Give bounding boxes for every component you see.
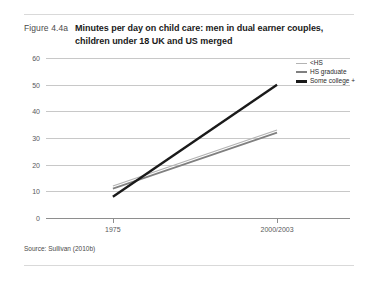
legend-label: Some college +	[310, 78, 355, 85]
figure-header: Figure 4.4a Minutes per day on child car…	[24, 22, 354, 48]
figure-number: Figure 4.4a	[24, 22, 68, 33]
x-axis-tick	[277, 218, 278, 223]
y-axis-tick-label: 20	[26, 161, 40, 168]
legend-item[interactable]: HS graduate	[296, 69, 374, 76]
legend: <HSHS graduateSome college +	[296, 60, 374, 87]
y-axis-tick-label: 0	[26, 215, 40, 222]
x-axis: 19752000/2003	[46, 218, 350, 240]
x-axis-tick-label: 1975	[105, 226, 121, 233]
x-axis-tick-label: 2000/2003	[260, 226, 293, 233]
y-axis-tick-label: 60	[26, 55, 40, 62]
legend-item[interactable]: Some college +	[296, 78, 374, 85]
x-axis-tick	[113, 218, 114, 223]
y-axis-tick-label: 30	[26, 135, 40, 142]
y-axis-tick-label: 40	[26, 108, 40, 115]
series-line	[113, 130, 277, 186]
y-axis-labels: 0102030405060	[24, 58, 40, 218]
source-note: Source: Sullivan (2010b)	[24, 245, 95, 252]
legend-label: HS graduate	[310, 69, 347, 76]
figure-title: Minutes per day on child care: men in du…	[75, 22, 354, 48]
figure-container: Figure 4.4a Minutes per day on child car…	[0, 0, 375, 285]
top-divider	[24, 14, 354, 15]
legend-swatch-icon	[296, 71, 307, 73]
legend-swatch-icon	[296, 63, 307, 65]
legend-item[interactable]: <HS	[296, 60, 374, 67]
legend-swatch-icon	[296, 80, 307, 83]
legend-label: <HS	[310, 60, 323, 67]
y-axis-tick-label: 10	[26, 188, 40, 195]
y-axis-tick-label: 50	[26, 81, 40, 88]
bottom-divider	[24, 265, 354, 266]
